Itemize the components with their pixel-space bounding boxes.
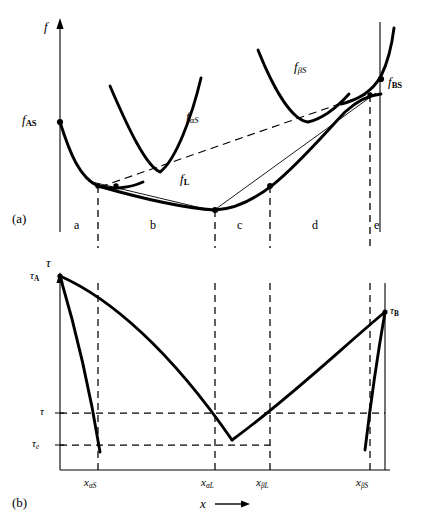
solidus-left	[60, 276, 100, 452]
curve-label-f-AS: fAS	[22, 113, 37, 128]
figure-root	[0, 0, 422, 525]
panel-b-curves	[60, 276, 385, 452]
curve-label-f-betaS: fβS	[294, 60, 306, 75]
panel-a-curves	[60, 28, 394, 210]
x-tick-x-betaS-sub: βS	[361, 482, 368, 490]
panel-a-region-dividers	[98, 95, 370, 248]
region-label-c: c	[237, 219, 242, 231]
y-tick-tau: τ	[40, 406, 44, 419]
panel-a-y-axis-label: f	[44, 20, 48, 33]
panel-a-tag: (a)	[12, 212, 26, 225]
region-label-b: b	[150, 219, 156, 231]
x-tick-x-betaL-sub: βL	[261, 482, 269, 490]
curve-label-f-alphaS: fαS	[186, 110, 198, 125]
region-label-e: e	[374, 219, 379, 231]
curve-f-alphaS	[110, 78, 201, 172]
x-tick-x-alphaL: xαL	[201, 477, 214, 490]
region-label-d: d	[312, 219, 318, 231]
curve-label-f-BS-sub: BS	[392, 80, 403, 90]
curve-label-f-L: fL	[180, 172, 189, 187]
liquidus-right	[232, 312, 385, 440]
x-tick-x-alphaS-sub: αS	[89, 482, 96, 490]
curve-label-f-L-sub: L	[184, 177, 190, 187]
region-label-a: a	[74, 219, 79, 231]
panel-b-y-axis-label: τ	[46, 256, 51, 269]
y-tick-tau-A-sub: A	[34, 275, 39, 283]
x-tick-x-alphaS: xαS	[84, 477, 96, 490]
panel-b-guide-lines	[60, 283, 385, 470]
tangent-dashed-common	[100, 93, 371, 187]
panel-b-x-axis-label: x	[200, 497, 206, 510]
label-tau-B: τB	[390, 305, 399, 318]
curve-label-f-AS-sub: AS	[26, 118, 37, 128]
panel-b-tag: (b)	[12, 496, 27, 509]
label-tau-B-sub: B	[394, 310, 399, 318]
curve-label-f-alphaS-sub: αS	[190, 115, 199, 125]
panel-b-markers	[57, 273, 387, 314]
x-axis-arrow	[215, 501, 250, 508]
tangent-solid-right	[213, 93, 376, 211]
y-tick-tau-A: τA	[30, 270, 39, 283]
y-tick-tau-base: τ	[40, 405, 44, 417]
panel-a-markers	[57, 76, 384, 213]
curve-label-f-betaS-sub: βS	[298, 65, 307, 75]
y-tick-tau-e-sub: e	[36, 443, 39, 451]
solidus-right	[365, 312, 385, 450]
liquidus-left	[60, 276, 232, 440]
x-tick-x-betaL: xβL	[256, 477, 269, 490]
x-tick-x-betaS: xβS	[356, 477, 368, 490]
x-tick-x-alphaL-sub: αL	[206, 482, 214, 490]
curve-label-f-BS: fBS	[388, 75, 402, 90]
y-tick-tau-e: τe	[32, 438, 39, 451]
